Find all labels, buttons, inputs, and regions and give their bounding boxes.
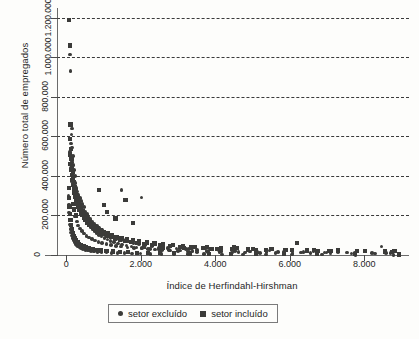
data-point-setor-excluido (299, 251, 303, 255)
data-point-setor-incluido (118, 238, 122, 242)
data-point-setor-incluido (146, 251, 150, 255)
data-point-setor-incluido (264, 248, 268, 252)
data-point-setor-incluido (305, 248, 309, 252)
data-point-setor-incluido (67, 186, 71, 190)
data-point-setor-incluido (118, 250, 122, 254)
chart-legend: setor excluído setor incluído (108, 304, 278, 323)
data-point-setor-excluido (69, 69, 73, 73)
circle-marker-icon (118, 311, 123, 316)
data-point-setor-incluido (135, 241, 139, 245)
square-marker-icon (200, 311, 206, 317)
legend-label: setor excluído (128, 308, 187, 319)
data-point-setor-incluido (71, 202, 75, 206)
data-point-setor-incluido (201, 246, 205, 250)
data-point-setor-incluido (172, 251, 176, 255)
data-point-setor-excluido (373, 252, 377, 256)
plot-area (57, 8, 409, 255)
data-point-setor-incluido (126, 250, 130, 254)
y-tick-label: 1.200.000 (30, 13, 44, 22)
data-point-setor-incluido (189, 245, 193, 249)
data-point-setor-incluido (254, 252, 258, 256)
x-tick-mark (215, 255, 216, 261)
data-point-setor-incluido (246, 247, 250, 251)
data-point-setor-incluido (131, 221, 135, 225)
x-tick-mark (66, 255, 67, 261)
y-tick-mark (51, 215, 58, 216)
data-point-setor-incluido (315, 252, 319, 256)
chart-figure: Número total de empregados 0200.000400.0… (0, 0, 419, 339)
y-tick-mark (51, 176, 58, 177)
data-point-setor-excluido (105, 242, 109, 246)
data-point-setor-incluido (232, 245, 236, 249)
data-point-setor-incluido (269, 247, 273, 251)
data-point-setor-incluido (68, 212, 72, 216)
data-point-setor-incluido (123, 198, 127, 202)
y-tick-mark (51, 136, 58, 137)
data-point-setor-excluido (380, 245, 384, 249)
data-point-setor-incluido (113, 216, 117, 220)
data-point-setor-incluido (295, 241, 299, 245)
x-axis-title: Índice de Herfindahl-Hirshman (57, 280, 407, 291)
gridline-y (57, 18, 409, 19)
x-tick-mark (141, 255, 142, 261)
legend-label: setor incluído (211, 308, 268, 319)
data-point-setor-incluido (353, 252, 357, 256)
data-point-setor-incluido (363, 249, 367, 253)
data-point-setor-excluido (220, 253, 224, 257)
data-point-setor-incluido (123, 239, 127, 243)
data-point-setor-incluido (182, 246, 186, 250)
gridline-y (57, 136, 409, 137)
data-point-setor-excluido (202, 252, 206, 256)
gridline-y (57, 57, 409, 58)
data-point-setor-excluido (114, 244, 118, 248)
data-point-setor-excluido (75, 220, 79, 224)
y-tick-label: 0 (30, 250, 44, 259)
data-point-setor-incluido (68, 43, 72, 47)
data-point-setor-incluido (74, 213, 78, 217)
data-point-setor-incluido (111, 249, 115, 253)
y-tick-label: 200.000 (30, 210, 44, 219)
data-point-setor-incluido (158, 251, 162, 255)
y-axis-tick-labels: 0200.000400.000600.000800.0001.000.0001.… (26, 0, 44, 339)
x-tick-mark (290, 255, 291, 261)
data-point-setor-incluido (104, 249, 108, 253)
legend-entry-setor-excluido: setor excluído (118, 308, 187, 319)
data-point-setor-excluido (109, 243, 113, 247)
data-point-setor-incluido (383, 249, 387, 253)
data-point-setor-incluido (290, 248, 294, 252)
data-point-setor-incluido (72, 207, 76, 211)
data-point-setor-excluido (276, 250, 280, 254)
data-point-setor-excluido (195, 250, 199, 254)
data-point-setor-excluido (264, 253, 268, 257)
data-point-setor-excluido (120, 188, 124, 192)
data-point-setor-incluido (67, 196, 71, 200)
data-point-setor-excluido (100, 241, 104, 245)
y-tick-mark (51, 18, 58, 19)
data-point-setor-incluido (68, 137, 72, 141)
legend-entry-setor-incluido: setor incluído (200, 308, 268, 319)
data-point-setor-excluido (132, 246, 136, 250)
data-point-setor-incluido (129, 240, 133, 244)
data-point-setor-incluido (282, 252, 286, 256)
data-point-setor-incluido (142, 245, 146, 249)
data-point-setor-incluido (229, 252, 233, 256)
data-point-setor-incluido (188, 251, 192, 255)
data-point-setor-excluido (130, 252, 134, 256)
data-point-setor-incluido (95, 248, 99, 252)
data-point-setor-excluido (140, 196, 144, 200)
data-point-setor-incluido (168, 244, 172, 248)
y-tick-label: 600.000 (30, 131, 44, 140)
y-tick-mark (51, 255, 58, 256)
data-point-setor-excluido (126, 246, 130, 250)
data-point-setor-incluido (209, 247, 213, 251)
data-point-setor-incluido (105, 210, 109, 214)
data-point-setor-incluido (99, 248, 103, 252)
data-point-setor-excluido (237, 250, 241, 254)
data-point-setor-incluido (69, 147, 73, 151)
data-point-setor-incluido (397, 252, 401, 256)
y-tick-mark (51, 97, 58, 98)
data-point-setor-incluido (327, 249, 331, 253)
gridline-y (57, 215, 409, 216)
data-point-setor-incluido (336, 248, 340, 252)
data-point-setor-incluido (113, 236, 117, 240)
